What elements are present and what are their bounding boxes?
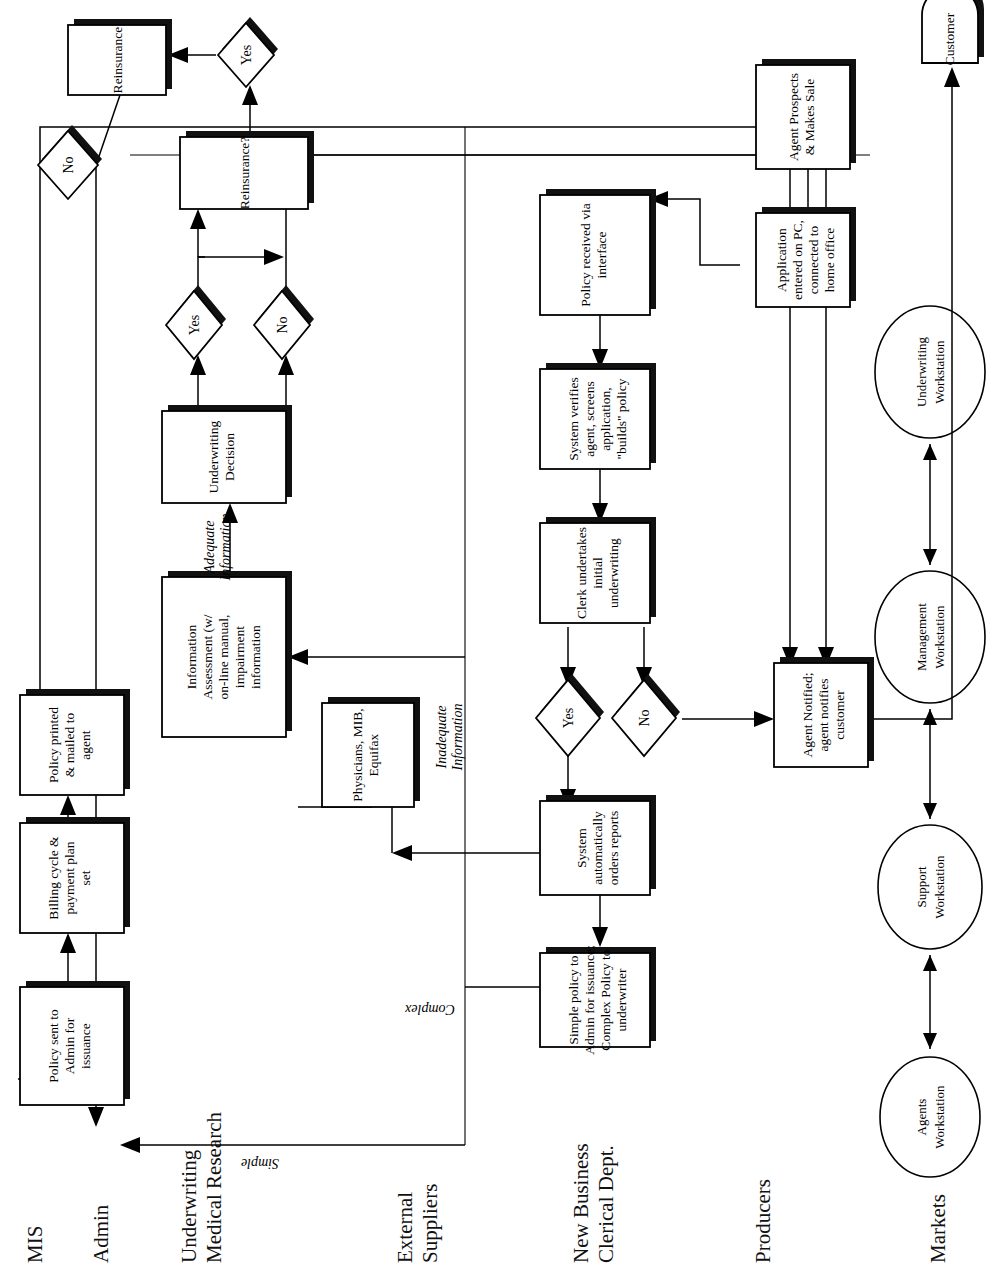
lane-label-external-line2: Suppliers bbox=[418, 1184, 442, 1263]
node-clerk-underwriting[interactable]: Clerk undertakes initial underwriting bbox=[540, 517, 656, 623]
lane-label-uw-line1: Underwriting bbox=[177, 1149, 201, 1263]
system-verifies-line3: application, bbox=[598, 387, 613, 450]
edge-label-inadequate-line2: Information bbox=[450, 704, 465, 772]
lane-label-newbiz-line1: New Business bbox=[569, 1143, 593, 1263]
policy-printed-line2: & mailed to bbox=[62, 713, 77, 778]
reinsurance-label: Reinsurance bbox=[110, 27, 125, 94]
clerk-uw-line1: Clerk undertakes bbox=[574, 527, 589, 619]
node-uw-decision[interactable]: Underwriting Decision bbox=[162, 405, 292, 503]
physicians-line2: Equifax bbox=[366, 733, 381, 776]
lane-label-uw-line2: Medical Research bbox=[202, 1111, 226, 1263]
edge-label-inadequate-line1: Inadequate bbox=[434, 706, 449, 770]
lane-label-mis: MIS bbox=[23, 1226, 47, 1263]
workstation-agents-label-line2: Workstation bbox=[932, 1085, 947, 1149]
physicians-line1: Physicians, MIB, bbox=[350, 708, 365, 801]
routing-line1: Simple policy to bbox=[566, 955, 581, 1044]
lane-label-external-line1: External bbox=[393, 1192, 417, 1263]
uwd-yes-label: Yes bbox=[187, 315, 202, 335]
node-system-orders[interactable]: System automatically orders reports bbox=[540, 795, 656, 895]
node-physicians[interactable]: Physicians, MIB, Equifax bbox=[322, 697, 420, 807]
system-orders-line1: System bbox=[574, 828, 589, 868]
node-customer[interactable]: Customer bbox=[922, 0, 984, 65]
edge-label-simple: Simple bbox=[241, 1156, 279, 1171]
workstation-management-label-line1: Management bbox=[914, 603, 929, 671]
node-system-verifies[interactable]: System verifies agent, screens applicati… bbox=[540, 363, 656, 469]
info-assessment-line3: on-line manual, bbox=[216, 615, 231, 700]
node-reinsurance-question[interactable]: Reinsurance? bbox=[180, 131, 314, 209]
clerk-yes-label: Yes bbox=[561, 708, 576, 728]
reinsurance-yes-label: Yes bbox=[239, 45, 254, 65]
workstation-support-label-line1: Support bbox=[914, 866, 929, 908]
workstation-underwriting-label-line2: Workstation bbox=[932, 340, 947, 404]
node-agent-notified[interactable]: Agent Notified; agent notifies customer bbox=[774, 657, 874, 767]
agent-prospects-line2: & Makes Sale bbox=[802, 79, 817, 156]
routing-line3: Complex Policy to bbox=[598, 949, 613, 1051]
lane-label-admin: Admin bbox=[89, 1204, 113, 1263]
system-verifies-line4: "builds" policy bbox=[614, 378, 629, 459]
lane-label-producers: Producers bbox=[751, 1179, 775, 1263]
policy-printed-line1: Policy printed bbox=[46, 707, 61, 783]
uwd-no-label: No bbox=[275, 316, 290, 333]
application-line4: home office bbox=[822, 228, 837, 293]
clerk-no-label: No bbox=[637, 709, 652, 726]
edge-label-adequate-line1: Adequate bbox=[202, 521, 217, 575]
workstation-support-label-line2: Workstation bbox=[932, 855, 947, 919]
application-line2: entered on PC, bbox=[790, 220, 805, 300]
billing-line2: payment plan bbox=[62, 841, 77, 914]
node-billing[interactable]: Billing cycle & payment plan set bbox=[20, 817, 130, 933]
workstation-underwriting-shape[interactable] bbox=[875, 306, 985, 438]
routing-line4: underwriter bbox=[614, 968, 629, 1031]
agent-notified-line2: agent notifies bbox=[816, 678, 831, 751]
reinsurance-question-label: Reinsurance? bbox=[237, 137, 252, 210]
edge-label-adequate-line2: Information bbox=[218, 514, 233, 582]
customer-label: Customer bbox=[942, 12, 957, 65]
policy-printed-line3: agent bbox=[78, 730, 93, 759]
workstation-agents-shape[interactable] bbox=[880, 1057, 980, 1177]
info-assessment-line4: impairment bbox=[232, 626, 247, 688]
node-application[interactable]: Application entered on PC, connected to … bbox=[756, 207, 856, 307]
workstation-management-shape[interactable] bbox=[875, 571, 985, 703]
billing-line3: set bbox=[78, 870, 93, 885]
application-line1: Application bbox=[774, 228, 789, 292]
node-reinsurance[interactable]: Reinsurance bbox=[68, 19, 172, 95]
edge-label-complex: Complex bbox=[404, 1002, 455, 1017]
agent-prospects-line1: Agent Prospects bbox=[786, 73, 801, 161]
node-policy-sent[interactable]: Policy sent to Admin for issuance bbox=[20, 981, 130, 1105]
routing-line2: Admin for issuance; bbox=[582, 945, 597, 1054]
uw-decision-line1: Underwriting bbox=[206, 420, 221, 493]
flowchart-svg: Markets Producers New Business Clerical … bbox=[0, 0, 993, 1277]
info-assessment-line2: Assessment (w/ bbox=[200, 614, 215, 699]
canvas-background bbox=[0, 0, 993, 1277]
workstation-management-label-line2: Workstation bbox=[932, 605, 947, 669]
policy-received-line2: interface bbox=[594, 231, 609, 278]
billing-line1: Billing cycle & bbox=[46, 836, 61, 920]
system-verifies-line1: System verifies bbox=[566, 377, 581, 461]
policy-received-line1: Policy received via bbox=[578, 203, 593, 306]
uw-decision-line2: Decision bbox=[222, 433, 237, 481]
node-policy-printed[interactable]: Policy printed & mailed to agent bbox=[20, 689, 130, 795]
agent-notified-line1: Agent Notified; bbox=[800, 672, 815, 757]
system-orders-line2: automatically bbox=[590, 811, 605, 885]
node-info-assessment[interactable]: Information Assessment (w/ on-line manua… bbox=[162, 571, 292, 737]
info-assessment-line1: Information bbox=[184, 625, 199, 690]
info-assessment-line5: information bbox=[248, 625, 263, 689]
application-line3: connected to bbox=[806, 225, 821, 294]
reinsurance-no-label: No bbox=[61, 156, 76, 173]
node-routing[interactable]: Simple policy to Admin for issuance; Com… bbox=[540, 945, 656, 1054]
clerk-uw-line2: initial bbox=[590, 557, 605, 589]
agent-notified-line3: customer bbox=[832, 690, 847, 740]
policy-sent-line1: Policy sent to bbox=[46, 1009, 61, 1083]
system-verifies-line2: agent, screens bbox=[582, 381, 597, 457]
workstation-agents-label-line1: Agents bbox=[914, 1099, 929, 1136]
node-agent-prospects[interactable]: Agent Prospects & Makes Sale bbox=[756, 59, 856, 169]
workstation-underwriting-label-line1: Underwriting bbox=[914, 336, 929, 407]
flowchart-canvas: Markets Producers New Business Clerical … bbox=[0, 0, 993, 1277]
flowchart-page: Markets Producers New Business Clerical … bbox=[0, 0, 993, 1277]
workstation-support-shape[interactable] bbox=[878, 825, 982, 949]
clerk-uw-line3: underwriting bbox=[606, 538, 621, 608]
lane-label-markets: Markets bbox=[926, 1194, 950, 1263]
node-policy-received[interactable]: Policy received via interface bbox=[540, 189, 656, 315]
policy-sent-line3: issuance bbox=[78, 1023, 93, 1069]
policy-sent-line2: Admin for bbox=[62, 1017, 77, 1074]
lane-label-newbiz-line2: Clerical Dept. bbox=[594, 1145, 618, 1263]
